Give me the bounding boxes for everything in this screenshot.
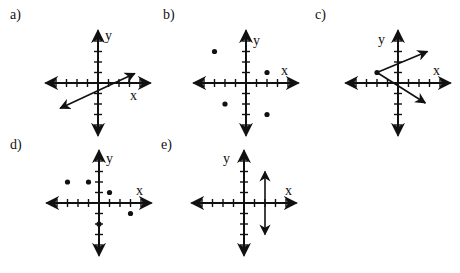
x-axis-label: x <box>281 63 288 78</box>
data-point <box>212 49 217 54</box>
graph-a: xy <box>46 28 151 136</box>
graph-c: xy <box>346 31 451 136</box>
data-point <box>65 179 70 184</box>
y-axis-label: y <box>106 151 113 166</box>
panels-layer: xyxyxyxyxy <box>46 28 451 256</box>
data-point <box>107 190 112 195</box>
graph-e: xy <box>192 151 297 256</box>
panel-label-e: e) <box>161 137 172 153</box>
figure-canvas: xyxyxyxyxy a) b) c) d) e) <box>0 0 460 273</box>
data-point <box>96 221 101 226</box>
panel-label-a: a) <box>10 7 21 23</box>
data-point <box>128 211 133 216</box>
data-point <box>264 112 269 117</box>
graph-d: xy <box>47 151 152 256</box>
y-axis-label: y <box>253 33 260 48</box>
y-axis-label: y <box>378 32 385 47</box>
graph-line <box>377 73 425 103</box>
y-axis-label: y <box>105 28 112 43</box>
data-point <box>374 70 379 75</box>
x-axis-label: x <box>433 63 440 78</box>
graph-b: xy <box>194 31 299 136</box>
panel-label-c: c) <box>315 7 326 23</box>
x-axis-label: x <box>136 183 143 198</box>
panel-label-b: b) <box>163 7 175 23</box>
panel-label-d: d) <box>10 137 22 153</box>
data-point <box>264 70 269 75</box>
y-axis-label: y <box>223 151 230 166</box>
x-axis-label: x <box>130 88 137 103</box>
data-point <box>222 101 227 106</box>
graph-line <box>377 52 427 73</box>
graphs-svg: xyxyxyxyxy <box>0 0 460 273</box>
data-point <box>86 179 91 184</box>
x-axis-label: x <box>285 183 292 198</box>
